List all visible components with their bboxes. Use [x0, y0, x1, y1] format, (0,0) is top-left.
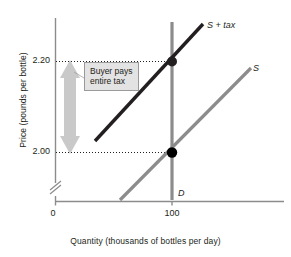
y-tick-label-220: 2.20: [14, 55, 50, 65]
curve-label-d: D: [178, 188, 185, 198]
curve-label-s-plus-tax: S + tax: [207, 20, 235, 30]
annotation-buyer-pays-entire-tax: Buyer pays entire tax: [84, 62, 139, 91]
y-tick-label-200: 2.00: [14, 146, 50, 156]
annotation-line-2: entire tax: [90, 76, 133, 86]
annotation-line-1: Buyer pays: [90, 66, 133, 76]
chart-plot-area: [0, 0, 291, 257]
y-axis-title: Price (pounds per bottle): [18, 20, 28, 180]
supply-curve-s: [120, 68, 251, 200]
x-tick-label-0: 0: [42, 208, 64, 218]
x-tick-label-100: 100: [156, 208, 188, 218]
equilibrium-point-with-tax: [167, 57, 177, 67]
equilibrium-point-without-tax: [167, 147, 177, 157]
economics-tax-incidence-chart: Price (pounds per bottle) Quantity (thou…: [0, 0, 291, 257]
x-axis-title: Quantity (thousands of bottles per day): [0, 236, 291, 246]
curve-label-s: S: [253, 63, 259, 73]
